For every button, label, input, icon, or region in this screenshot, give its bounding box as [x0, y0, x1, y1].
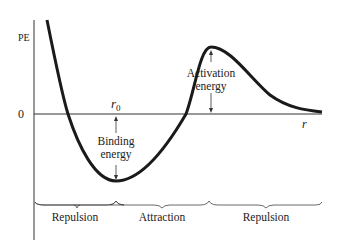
arrowhead-icon — [114, 175, 118, 180]
region-label-repulsion-left: Repulsion — [52, 211, 99, 224]
activation-energy-label-2: energy — [195, 80, 226, 93]
region-label-repulsion-right: Repulsion — [243, 211, 290, 224]
brace-repulsion-right — [209, 201, 322, 208]
r0-label: r0 — [111, 96, 121, 113]
arrowhead-icon — [209, 108, 213, 113]
brace-tick-left — [74, 205, 80, 208]
brace-attraction — [116, 201, 209, 208]
binding-energy-label-1: Binding — [97, 135, 134, 148]
pe-curve — [47, 20, 322, 181]
zero-label: 0 — [18, 107, 24, 121]
x-axis-label: r — [302, 117, 307, 131]
potential-energy-diagram: r0 Binding energy Activation energy PE 0… — [0, 0, 339, 250]
arrowhead-icon — [114, 116, 118, 121]
activation-energy-label-1: Activation — [187, 67, 236, 79]
arrowhead-icon — [209, 50, 213, 55]
binding-energy-label-2: energy — [100, 148, 131, 161]
y-axis-label: PE — [18, 32, 30, 43]
region-label-attraction: Attraction — [139, 211, 186, 223]
brace-repulsion-left-full — [35, 201, 116, 205]
